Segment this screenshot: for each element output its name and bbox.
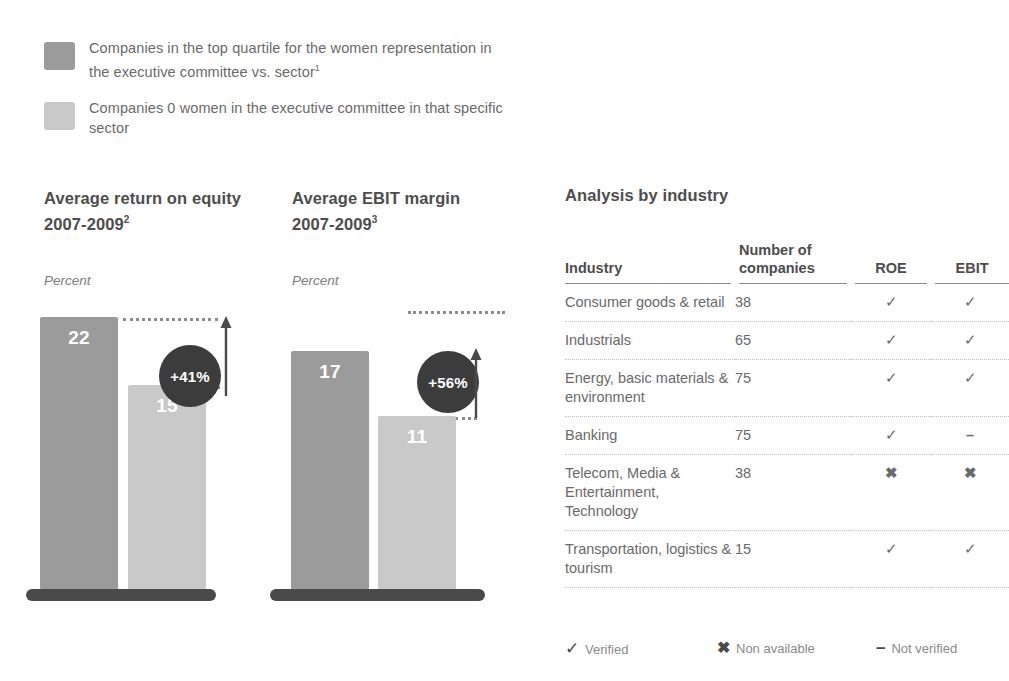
table-header-industry: Industry — [565, 241, 735, 284]
table-row: Energy, basic materials & environment 75… — [565, 360, 1009, 417]
chart-1-footnote: 2 — [124, 214, 130, 225]
footer-legend-non-available-label: Non available — [736, 641, 815, 656]
table-cell-ebit-mark: ✓ — [931, 284, 1009, 322]
footer-legend-not-verified-label: Not verified — [891, 641, 957, 656]
table-cell-industry: Telecom, Media & Entertainment, Technolo… — [565, 455, 735, 531]
table-cell-ebit-mark: – — [931, 417, 1009, 455]
footer-legend-not-verified: –Not verified — [876, 638, 957, 658]
chart-2-footnote: 3 — [372, 214, 378, 225]
chart-2-bar-value-top-quartile: 17 — [291, 361, 369, 383]
legend-swatch-light — [44, 102, 75, 130]
chart-1-bar-value-top-quartile: 22 — [40, 327, 118, 349]
table-cell-ebit-mark: ✓ — [931, 360, 1009, 417]
table-header-ebit: EBIT — [931, 241, 1009, 284]
table-cell-roe-mark: ✓ — [851, 284, 931, 322]
check-icon: ✓ — [565, 639, 579, 658]
footer-legend-verified: ✓Verified — [565, 638, 628, 659]
chart-2-reference-line — [408, 311, 505, 314]
chart-1-roe: 22 15 +41% — [26, 300, 256, 602]
legend-swatch-dark — [44, 42, 75, 70]
table-cell-industry: Transportation, logistics & tourism — [565, 531, 735, 588]
analysis-table-section: Analysis by industry Industry Number of … — [565, 186, 985, 588]
chart-2-bar-value-zero-women: 11 — [378, 426, 456, 448]
table-row: Transportation, logistics & tourism 15 ✓… — [565, 531, 1009, 588]
chart-2-ebit: 17 11 +56% — [270, 300, 520, 602]
table-cell-ebit-mark: ✖ — [931, 455, 1009, 531]
chart-1-reference-line — [123, 318, 218, 321]
table-cell-industry: Banking — [565, 417, 735, 455]
cross-icon: ✖ — [717, 639, 730, 656]
legend-label-zero-women: Companies 0 women in the executive commi… — [89, 98, 514, 138]
table-row: Industrials 65 ✓ ✓ — [565, 322, 1009, 360]
table-cell-roe-mark: ✓ — [851, 417, 931, 455]
table-header-number-of-companies: Number of companies — [735, 241, 851, 284]
table-cell-count: 38 — [735, 284, 851, 322]
table-cell-count: 75 — [735, 360, 851, 417]
chart-1-bar-top-quartile: 22 — [40, 317, 118, 590]
chart-1-title-text: Average return on equity 2007-2009 — [44, 189, 241, 233]
table-cell-industry: Energy, basic materials & environment — [565, 360, 735, 417]
table-header-roe: ROE — [851, 241, 931, 284]
chart-2-unit-label: Percent — [292, 273, 339, 288]
table-cell-count: 65 — [735, 322, 851, 360]
analysis-table: Industry Number of companies ROE EBIT Co… — [565, 241, 1009, 588]
table-cell-roe-mark: ✓ — [851, 531, 931, 588]
chart-2-baseline — [270, 589, 485, 601]
chart-2-growth-arrow — [466, 348, 486, 420]
table-cell-ebit-mark: ✓ — [931, 322, 1009, 360]
table-row: Banking 75 ✓ – — [565, 417, 1009, 455]
chart-2-bar-top-quartile: 17 — [291, 351, 369, 590]
footer-legend-non-available: ✖Non available — [717, 638, 815, 657]
footer-legend-verified-label: Verified — [585, 642, 628, 657]
chart-1-title: Average return on equity 2007-20092 — [44, 188, 259, 235]
dash-icon: – — [876, 638, 885, 657]
legend-footnote-1: 1 — [315, 63, 320, 73]
legend-label-top-quartile: Companies in the top quartile for the wo… — [89, 38, 514, 82]
chart-2-title-text: Average EBIT margin 2007-2009 — [292, 189, 460, 233]
chart-2-title: Average EBIT margin 2007-20093 — [292, 188, 507, 235]
table-cell-roe-mark: ✓ — [851, 360, 931, 417]
table-cell-roe-mark: ✖ — [851, 455, 931, 531]
chart-2-bar-zero-women: 11 — [378, 416, 456, 590]
table-header-row: Industry Number of companies ROE EBIT — [565, 241, 1009, 284]
chart-1-delta-badge: +41% — [159, 345, 221, 407]
table-cell-count: 38 — [735, 455, 851, 531]
legend-item-top-quartile: Companies in the top quartile for the wo… — [44, 38, 514, 84]
chart-1-unit-label: Percent — [44, 273, 91, 288]
chart-1-bar-zero-women: 15 — [128, 385, 206, 590]
table-row: Telecom, Media & Entertainment, Technolo… — [565, 455, 1009, 531]
chart-1-growth-arrow — [216, 316, 236, 398]
table-cell-roe-mark: ✓ — [851, 322, 931, 360]
chart-1-baseline — [26, 589, 216, 601]
analysis-table-title: Analysis by industry — [565, 186, 985, 205]
table-cell-count: 15 — [735, 531, 851, 588]
table-cell-ebit-mark: ✓ — [931, 531, 1009, 588]
legend-text-2: Companies 0 women in the executive commi… — [89, 100, 503, 136]
table-cell-industry: Industrials — [565, 322, 735, 360]
chart-legend: Companies in the top quartile for the wo… — [44, 38, 514, 158]
legend-item-zero-women: Companies 0 women in the executive commi… — [44, 98, 514, 144]
table-row: Consumer goods & retail 38 ✓ ✓ — [565, 284, 1009, 322]
table-cell-industry: Consumer goods & retail — [565, 284, 735, 322]
legend-text-1: Companies in the top quartile for the wo… — [89, 40, 492, 80]
table-cell-count: 75 — [735, 417, 851, 455]
